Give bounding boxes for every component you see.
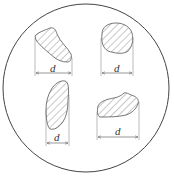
particle-top-left: d: [35, 28, 72, 76]
particle-bottom-right: d: [97, 93, 139, 140]
particle-top-right: d: [101, 23, 133, 76]
dimension-label: d: [115, 125, 121, 137]
particle-diagram: d d d d: [0, 0, 174, 179]
dimension-label: d: [114, 62, 120, 74]
dimension-label: d: [50, 62, 56, 74]
field-circle: [3, 4, 169, 172]
particle-bottom-left: d: [46, 81, 69, 146]
dimension-label: d: [54, 131, 60, 143]
